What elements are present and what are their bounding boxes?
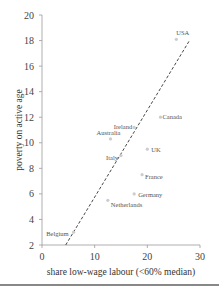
point-label: UK bbox=[151, 146, 161, 153]
x-tick-label: 20 bbox=[142, 251, 152, 262]
y-tick-label: 4 bbox=[29, 214, 34, 225]
data-point bbox=[106, 199, 109, 202]
y-tick-label: 12 bbox=[24, 112, 34, 123]
x-tick-label: 10 bbox=[90, 251, 100, 262]
data-point bbox=[109, 137, 112, 140]
data-points: USACanadaIrelandAustraliaItalyUKFranceGe… bbox=[46, 29, 189, 237]
x-axis-label: share low-wage labour (<60% median) bbox=[47, 267, 195, 278]
data-point bbox=[72, 231, 75, 234]
point-label: Italy bbox=[106, 154, 119, 161]
y-tick-label: 16 bbox=[24, 61, 34, 72]
y-tick-label: 20 bbox=[24, 10, 34, 21]
point-label: USA bbox=[176, 29, 189, 36]
scatter-chart: 24681012141618200102030 USACanadaIreland… bbox=[0, 0, 219, 293]
data-point bbox=[146, 148, 149, 151]
y-tick-label: 10 bbox=[24, 137, 34, 148]
point-label: France bbox=[145, 173, 163, 180]
data-point bbox=[175, 38, 178, 41]
data-point bbox=[133, 126, 136, 129]
data-point bbox=[140, 173, 143, 176]
point-label: Belgium bbox=[46, 230, 68, 237]
bottom-rule bbox=[0, 284, 219, 286]
data-point bbox=[119, 154, 122, 157]
point-label: Netherlands bbox=[111, 201, 143, 208]
trendline-dashed bbox=[66, 41, 190, 245]
y-tick-label: 6 bbox=[29, 188, 34, 199]
y-axis-label: poverty on active age bbox=[14, 89, 24, 171]
x-tick-label: 0 bbox=[40, 251, 45, 262]
point-label: Canada bbox=[163, 113, 183, 120]
trendline bbox=[66, 41, 190, 245]
point-label: Germany bbox=[138, 191, 163, 198]
y-tick-label: 8 bbox=[29, 163, 34, 174]
x-tick-label: 30 bbox=[195, 251, 205, 262]
y-tick-label: 2 bbox=[29, 240, 34, 251]
point-label: Australia bbox=[97, 129, 121, 136]
data-point bbox=[133, 192, 136, 195]
y-tick-label: 14 bbox=[24, 86, 34, 97]
y-tick-label: 18 bbox=[24, 35, 34, 46]
